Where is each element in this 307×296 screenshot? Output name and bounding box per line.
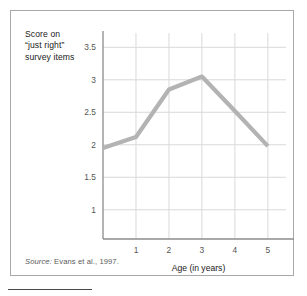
bottom-divider-rule bbox=[8, 289, 92, 290]
figure-root: 11.522.533.5 12345 Age (in years) Score … bbox=[0, 0, 307, 296]
x-tick-labels: 12345 bbox=[134, 245, 271, 255]
axis-lines bbox=[103, 31, 294, 239]
source-citation: Evans et al., 1997. bbox=[52, 257, 119, 266]
figure-frame: 11.522.533.5 12345 Age (in years) Score … bbox=[10, 10, 294, 276]
source-label: Source: bbox=[25, 257, 52, 266]
source-note: Source: Evans et al., 1997. bbox=[25, 257, 119, 266]
y-axis-caption: Score on “just right” survey items bbox=[25, 29, 103, 63]
y-tick-label-1.5: 1.5 bbox=[84, 172, 96, 182]
y-axis-caption-line-3: survey items bbox=[25, 52, 103, 63]
y-tick-labels: 11.522.533.5 bbox=[84, 42, 96, 214]
x-axis-title-text: Age (in years) bbox=[172, 263, 226, 273]
x-tick-label-2: 2 bbox=[167, 245, 172, 255]
y-tick-label-3: 3 bbox=[91, 75, 96, 85]
x-tick-label-3: 3 bbox=[200, 245, 205, 255]
x-axis-title: Age (in years) bbox=[172, 263, 226, 273]
x-tick-label-5: 5 bbox=[266, 245, 271, 255]
y-tick-label-2: 2 bbox=[91, 140, 96, 150]
y-tick-label-2.5: 2.5 bbox=[84, 107, 96, 117]
x-tick-label-4: 4 bbox=[233, 245, 238, 255]
x-tick-label-1: 1 bbox=[134, 245, 139, 255]
y-axis-caption-line-2: “just right” bbox=[25, 40, 103, 51]
y-axis-caption-line-1: Score on bbox=[25, 29, 103, 40]
y-tick-label-1: 1 bbox=[91, 205, 96, 215]
